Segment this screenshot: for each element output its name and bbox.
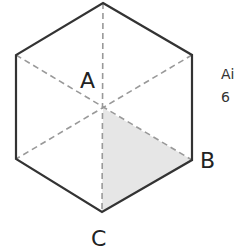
shaded-triangle [102,108,192,212]
side-text-line2: 6 [221,90,230,104]
side-text-line1: Ai [221,67,234,81]
label-b: B [200,150,215,172]
label-a: A [80,70,95,92]
label-c: C [91,228,106,250]
